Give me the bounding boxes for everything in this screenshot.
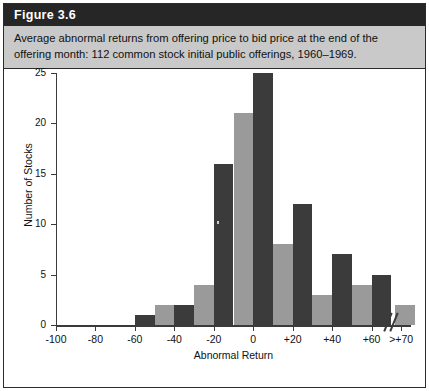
y-tick-label: 15 — [4, 168, 46, 179]
histogram-bar — [312, 295, 332, 325]
y-tick-label: 10 — [4, 218, 46, 229]
histogram-bar — [395, 305, 415, 325]
histogram-bar — [372, 275, 392, 325]
histogram-bar — [214, 164, 234, 325]
figure-label: Figure 3.6 — [14, 8, 76, 22]
histogram-bar — [332, 254, 352, 325]
histogram-bar — [135, 315, 155, 325]
x-tick — [332, 326, 333, 331]
x-tick — [253, 326, 254, 331]
x-tick-label: >+70 — [376, 333, 426, 345]
chart-plot-area: Number of Stocks 0510152025 -100-80-60-4… — [4, 69, 425, 375]
x-tick — [401, 326, 402, 331]
plot-speck — [217, 221, 219, 224]
figure-caption: Average abnormal returns from offering p… — [4, 26, 425, 69]
histogram-bar — [253, 73, 273, 325]
histogram-bar — [273, 244, 293, 325]
y-tick-label: 20 — [4, 117, 46, 128]
x-axis-line — [56, 325, 411, 327]
figure-header: Figure 3.6 — [4, 4, 425, 26]
y-tick-label: 5 — [4, 269, 46, 280]
histogram-bar — [234, 113, 254, 325]
histogram-bar — [293, 204, 313, 325]
histogram-bar — [194, 285, 214, 325]
x-axis-title: Abnormal Return — [56, 349, 411, 361]
y-tick-label: 0 — [4, 319, 46, 330]
x-tick — [95, 326, 96, 331]
figure-caption-line-1: Average abnormal returns from offering p… — [14, 31, 415, 47]
histogram-bar — [352, 285, 372, 325]
histogram-bars — [56, 73, 411, 325]
x-tick — [372, 326, 373, 331]
x-tick — [56, 326, 57, 331]
histogram-bar — [155, 305, 175, 325]
figure-caption-line-2: offering month: 112 common stock initial… — [14, 47, 415, 63]
figure-card: Figure 3.6 Average abnormal returns from… — [3, 3, 426, 388]
histogram-bar — [174, 305, 194, 325]
x-tick — [214, 326, 215, 331]
y-tick-label: 25 — [4, 67, 46, 78]
y-axis-title: Number of Stocks — [22, 115, 34, 255]
x-tick — [174, 326, 175, 331]
x-tick — [293, 326, 294, 331]
x-tick — [135, 326, 136, 331]
